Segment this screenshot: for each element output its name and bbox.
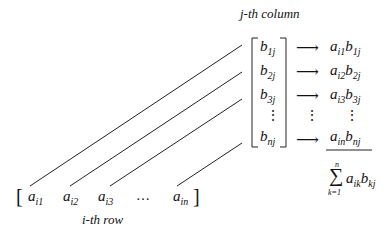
arrow-icon: ⟶ xyxy=(296,62,319,81)
column-entry: b1j xyxy=(260,38,275,57)
sum-term: aikbkj xyxy=(346,170,375,189)
row-label: i-th row xyxy=(82,212,123,228)
entry-sub: 3j xyxy=(268,94,276,105)
product-term: ai2b2j xyxy=(330,62,361,81)
sum-symbol: ∑ xyxy=(329,164,343,187)
column-label: j-th column xyxy=(240,6,300,22)
column-vdots: ⋮ xyxy=(266,107,280,124)
entry-base: b xyxy=(260,62,268,78)
row-close-bracket: ] xyxy=(193,185,200,208)
row-open-bracket: [ xyxy=(16,185,23,208)
product-vdots: ⋮ xyxy=(345,107,359,124)
entry-sub: nj xyxy=(268,136,276,147)
entry-base: b xyxy=(260,38,268,54)
row-entry: ai3 xyxy=(98,188,113,207)
entry-base: b xyxy=(260,128,268,144)
column-entry: b3j xyxy=(260,86,275,105)
arrow-icon: ⟶ xyxy=(296,130,319,149)
sum-lower: k=1 xyxy=(328,188,341,197)
entry-sub: 1j xyxy=(268,46,276,57)
row-entry: ain xyxy=(173,188,188,207)
product-term: ai3b3j xyxy=(330,86,361,105)
arrow-icon: ⟶ xyxy=(296,38,319,57)
row-entry: ai2 xyxy=(63,188,78,207)
column-entry: bnj xyxy=(260,128,275,147)
entry-sub: 2j xyxy=(268,70,276,81)
arrow-vdots: ⋮ xyxy=(305,107,319,124)
entry-base: b xyxy=(260,86,268,102)
column-entry: b2j xyxy=(260,62,275,81)
product-term: ai1b1j xyxy=(330,38,361,57)
arrow-icon: ⟶ xyxy=(296,86,319,105)
row-entry: ai1 xyxy=(28,188,43,207)
product-term: ainbnj xyxy=(330,128,361,147)
row-ellipsis: … xyxy=(136,188,150,204)
